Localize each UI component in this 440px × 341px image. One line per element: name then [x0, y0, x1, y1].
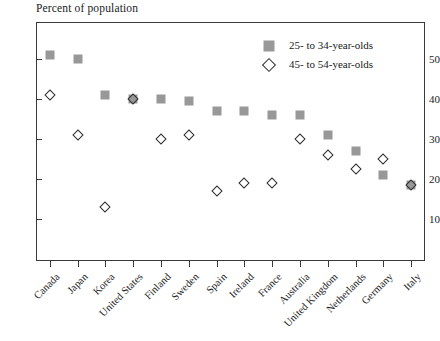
x-tick-mark: [105, 261, 106, 267]
x-tick-label: Japan: [65, 271, 90, 296]
data-point-square: [379, 171, 388, 180]
data-point-diamond: [350, 163, 361, 174]
diamond-icon: [262, 57, 276, 71]
chart-legend: 25- to 34-year-olds45- to 54-year-olds: [258, 36, 373, 74]
data-point-diamond: [72, 129, 83, 140]
data-point-diamond: [267, 177, 278, 188]
data-point-square: [351, 147, 360, 156]
legend-label: 45- to 54-year-olds: [289, 55, 373, 74]
legend-label: 25- to 34-year-olds: [289, 36, 373, 55]
data-point-diamond: [211, 185, 222, 196]
square-icon: [264, 40, 275, 51]
legend-item: 45- to 54-year-olds: [258, 55, 373, 74]
x-tick-mark: [356, 261, 357, 267]
x-tick-mark: [78, 261, 79, 267]
data-point-square: [73, 55, 82, 64]
x-tick-label: Sweden: [169, 271, 200, 302]
data-point-diamond: [155, 133, 166, 144]
x-tick-mark: [189, 261, 190, 267]
x-tick-mark: [244, 261, 245, 267]
x-tick-mark: [217, 261, 218, 267]
x-tick-label: Italy: [401, 271, 422, 292]
data-point-diamond: [239, 177, 250, 188]
chart-container: Percent of population 1020304050 CanadaJ…: [0, 0, 440, 341]
x-tick-label: Ireland: [227, 271, 256, 300]
x-tick-label: Canada: [32, 271, 62, 301]
data-point-diamond: [294, 133, 305, 144]
data-point-diamond: [183, 129, 194, 140]
data-point-square: [323, 131, 332, 140]
x-tick-label: Finland: [142, 271, 172, 301]
legend-item: 25- to 34-year-olds: [258, 36, 373, 55]
y-axis-title: Percent of population: [36, 2, 138, 14]
data-point-square: [268, 111, 277, 120]
data-point-square: [240, 107, 249, 116]
legend-marker-diamond-icon: [258, 58, 280, 72]
data-point-diamond: [100, 201, 111, 212]
x-tick-mark: [411, 261, 412, 267]
x-tick-mark: [383, 261, 384, 267]
x-tick-mark: [133, 261, 134, 267]
x-tick-mark: [161, 261, 162, 267]
legend-marker-square-icon: [258, 39, 280, 53]
x-tick-mark: [272, 261, 273, 267]
data-point-diamond: [322, 149, 333, 160]
data-point-square: [101, 91, 110, 100]
x-tick-mark: [50, 261, 51, 267]
data-point-square: [157, 95, 166, 104]
data-point-diamond: [44, 89, 55, 100]
data-point-square: [295, 111, 304, 120]
data-point-square: [184, 97, 193, 106]
data-point-diamond: [378, 153, 389, 164]
x-tick-mark: [328, 261, 329, 267]
data-point-square: [212, 107, 221, 116]
x-tick-label: Spain: [204, 271, 229, 296]
data-point-square: [45, 51, 54, 60]
x-tick-mark: [300, 261, 301, 267]
